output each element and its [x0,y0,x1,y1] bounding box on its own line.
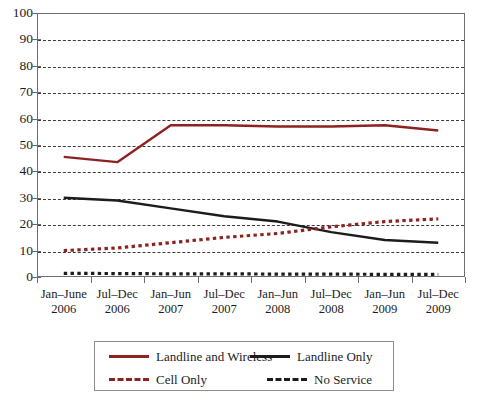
legend-row-2: Cell Only No Service [95,367,393,392]
legend-swatch-solid-black-icon [250,355,290,358]
legend-label: Cell Only [156,373,207,386]
series-line-landline-and-wireless [64,125,439,162]
x-axis-tick-label-period: Jan–Jun [364,287,405,301]
x-axis-tick-label-period: Jul–Dec [97,287,138,301]
y-axis-tick-label: 90 [3,32,33,46]
legend: Landline and Wireless Landline Only Cell… [94,341,394,391]
x-axis-tick-mark [305,277,306,283]
x-axis-tick-label-period: Jan–June [41,287,87,301]
legend-label: No Service [314,373,372,386]
x-axis-tick-mark [198,277,199,283]
y-axis-tick-label: 20 [3,217,33,231]
y-axis-tick-label: 30 [3,191,33,205]
y-axis-tick-label: 0 [3,270,33,284]
y-axis-tick-label: 10 [3,244,33,258]
x-axis-tick-mark [358,277,359,283]
x-axis-tick-label-year: 2009 [402,302,474,317]
legend-swatch-solid-red-icon [109,355,149,358]
x-axis-tick-mark [465,277,466,283]
x-axis-tick-label-period: Jan–Jun [150,287,191,301]
legend-label: Landline Only [297,350,372,363]
data-series-layer [37,13,465,277]
legend-item-no-service: No Service [267,367,372,392]
line-chart: 0102030405060708090100 Jan–June2006Jul–D… [0,0,480,407]
y-axis-tick-label: 80 [3,59,33,73]
y-axis-tick-label: 50 [3,138,33,152]
legend-item-cell-only: Cell Only [109,367,207,392]
legend-item-landline-and-wireless: Landline and Wireless [109,344,272,369]
x-axis-tick-mark [144,277,145,283]
legend-row-1: Landline and Wireless Landline Only [95,344,393,369]
x-axis-tick-mark [412,277,413,283]
x-axis-tick-label-period: Jul–Dec [204,287,245,301]
x-axis-tick-label-period: Jan–Jun [257,287,298,301]
x-axis-tick-label-period: Jul–Dec [311,287,352,301]
y-axis-tick-label: 40 [3,164,33,178]
x-axis-tick-mark [91,277,92,283]
y-axis-tick-label: 60 [3,112,33,126]
y-axis-tick-label: 100 [3,6,33,20]
legend-swatch-dashed-red-icon [109,378,149,381]
x-axis-tick-label-period: Jul–Dec [418,287,459,301]
series-line-cell-only [64,219,439,251]
legend-item-landline-only: Landline Only [250,344,372,369]
x-axis-tick-mark [251,277,252,283]
series-line-no-service [64,273,439,274]
y-axis-tick-label: 70 [3,85,33,99]
x-axis-tick-label: Jul–Dec2009 [402,287,474,316]
x-axis-tick-mark [37,277,38,283]
legend-swatch-dashed-black-icon [267,378,307,381]
y-axis-ticks: 0102030405060708090100 [0,13,33,277]
